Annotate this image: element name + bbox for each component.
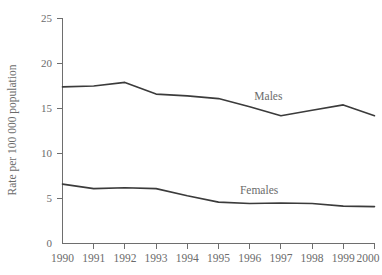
y-tick-label: 5 [47,192,53,204]
x-tick-label: 1993 [145,252,168,264]
x-tick-label: 1996 [238,252,261,264]
y-axis-title: Rate per 100 000 population [6,64,19,195]
y-axis-title-text: Rate per 100 000 population [6,64,19,195]
x-tick-label: 1990 [51,252,74,264]
chart-svg: Rate per 100 000 population 25 20 15 10 [0,0,382,275]
x-tick-label: 2000 [357,252,380,264]
y-tick-label: 0 [47,237,53,249]
y-tick-label: 25 [41,12,53,24]
x-tick-label: 1997 [269,252,292,264]
x-tick-1990: 1990 [51,252,74,264]
y-tick-label: 15 [41,102,53,114]
line-chart: Rate per 100 000 population 25 20 15 10 [0,0,382,275]
x-tick-label: 1994 [176,252,199,264]
x-tick-label: 1991 [82,252,105,264]
chart-background [0,0,382,275]
series-label-males: Males [254,90,283,102]
series-label-females: Females [240,184,279,196]
y-tick-label: 20 [41,57,53,69]
y-tick-0: 0 [47,237,53,249]
x-tick-label: 1992 [113,252,136,264]
x-tick-label: 1999 [332,252,355,264]
y-tick-label: 10 [41,147,53,159]
x-tick-label: 1998 [301,252,324,264]
x-tick-label: 1995 [207,252,230,264]
